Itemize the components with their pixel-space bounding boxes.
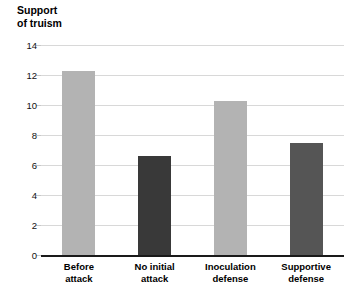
bar[interactable] (62, 71, 95, 256)
x-axis-category-label: No initial attack (117, 261, 193, 285)
bar[interactable] (138, 156, 171, 255)
y-tick-label: 0 (0, 250, 37, 261)
y-tick-label: 6 (0, 160, 37, 171)
y-tick-label: 10 (0, 100, 37, 111)
bar-chart: Support of truism 02468101214 Before att… (0, 0, 348, 301)
y-tick-label: 8 (0, 130, 37, 141)
plot-area (41, 45, 344, 255)
bar[interactable] (214, 101, 247, 256)
gridline (41, 45, 344, 46)
bar[interactable] (290, 143, 323, 256)
x-axis-category-label: Before attack (41, 261, 117, 285)
x-axis-category-label: Inoculation defense (193, 261, 269, 285)
y-tick-label: 2 (0, 220, 37, 231)
chart-title: Support of truism (17, 4, 62, 29)
x-axis-line (41, 255, 344, 257)
y-tick-label: 12 (0, 70, 37, 81)
x-axis-category-label: Supportive defense (268, 261, 344, 285)
y-tick-label: 14 (0, 40, 37, 51)
y-tick-label: 4 (0, 190, 37, 201)
